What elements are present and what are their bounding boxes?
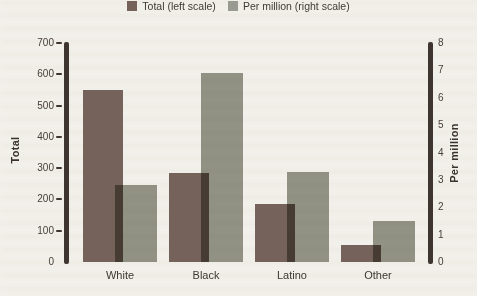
y-axis-left-tick-label: 300 (26, 163, 54, 173)
y-axis-right-tick-label: 1 (438, 230, 462, 240)
y-axis-left-tick (56, 198, 62, 200)
y-axis-left-tick-label: 700 (26, 38, 54, 48)
bar-per-million-other (373, 221, 415, 262)
y-axis-left-tick (56, 167, 62, 169)
y-axis-right-tick-label: 0 (438, 257, 462, 267)
y-axis-left-line (64, 42, 69, 264)
book-page-chart: Total (left scale)Per million (right sca… (0, 0, 477, 296)
y-axis-left-tick (56, 42, 62, 44)
y-axis-right-tick-label: 3 (438, 175, 462, 185)
y-axis-right-tick-label: 6 (438, 93, 462, 103)
y-axis-right-tick-label: 8 (438, 38, 462, 48)
y-axis-left-tick-label: 500 (26, 101, 54, 111)
y-axis-right-tick-label: 4 (438, 148, 462, 158)
legend-item-total: Total (left scale) (127, 0, 216, 12)
bar-per-million-latino (287, 172, 329, 262)
y-axis-right-tick-label: 2 (438, 202, 462, 212)
y-axis-right-tick-label: 7 (438, 65, 462, 75)
bar-per-million-white (115, 185, 157, 262)
legend-label: Total (left scale) (142, 0, 216, 12)
legend-swatch-icon (228, 1, 238, 11)
y-axis-left-tick (56, 73, 62, 75)
y-axis-left-tick (56, 136, 62, 138)
y-axis-right-line (428, 42, 433, 264)
y-axis-right-tick-label: 5 (438, 120, 462, 130)
x-axis-category-label-white: White (80, 269, 160, 281)
y-axis-left-tick-label: 600 (26, 69, 54, 79)
legend: Total (left scale)Per million (right sca… (0, 0, 477, 12)
y-axis-left-title: Total (9, 120, 23, 180)
legend-swatch-icon (127, 1, 137, 11)
legend-item-per-million: Per million (right scale) (228, 0, 350, 12)
y-axis-left-tick-label: 400 (26, 132, 54, 142)
y-axis-left-tick (56, 105, 62, 107)
x-axis-category-label-latino: Latino (252, 269, 332, 281)
bar-per-million-black (201, 73, 243, 262)
y-axis-left-tick-label: 0 (26, 257, 54, 267)
y-axis-left-tick-label: 100 (26, 226, 54, 236)
legend-label: Per million (right scale) (243, 0, 350, 12)
x-axis-category-label-black: Black (166, 269, 246, 281)
y-axis-left-tick-label: 200 (26, 194, 54, 204)
x-axis-category-label-other: Other (338, 269, 418, 281)
y-axis-left-tick (56, 230, 62, 232)
